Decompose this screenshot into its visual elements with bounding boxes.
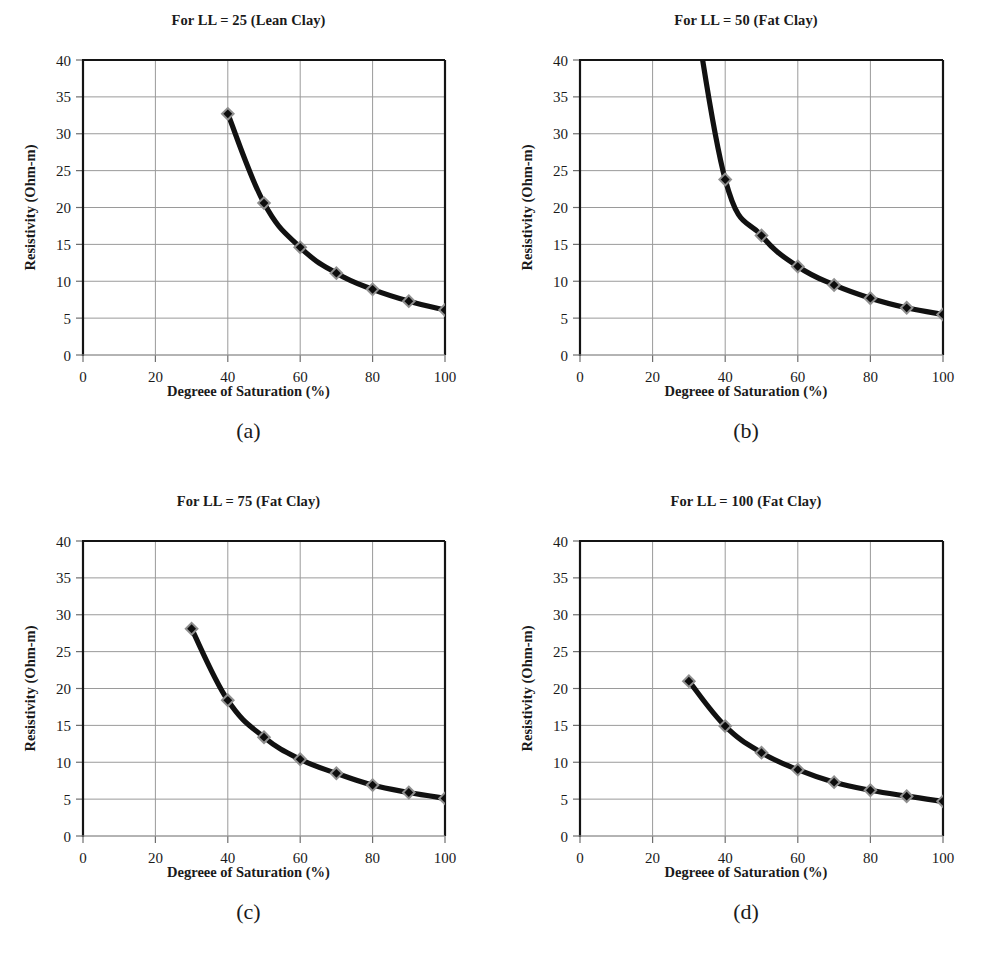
ytick-label: 15	[56, 718, 71, 734]
panel-b: For LL = 50 (Fat Clay) 05101520253035400…	[497, 0, 995, 481]
data-point-marker	[365, 282, 379, 296]
xtick-label: 40	[220, 369, 235, 382]
ytick-label: 5	[561, 311, 569, 327]
panel-b-plot: 0510152025303540020406080100Resistivity …	[497, 42, 995, 382]
xtick-label: 80	[863, 850, 878, 863]
data-point-marker	[365, 778, 379, 792]
data-point-marker	[863, 291, 877, 305]
panel-c-caption: (c)	[0, 899, 497, 925]
data-point-marker	[900, 789, 914, 803]
ytick-label: 10	[56, 274, 71, 290]
xtick-label: 100	[434, 369, 457, 382]
yaxis-title: Resistivity (Ohm-m)	[22, 625, 39, 751]
xtick-label: 40	[718, 850, 733, 863]
panel-a-caption: (a)	[0, 418, 497, 444]
xtick-label: 20	[645, 369, 660, 382]
ytick-label: 20	[553, 681, 568, 697]
data-point-marker	[402, 294, 416, 308]
panel-a: For LL = 25 (Lean Clay) 0510152025303540…	[0, 0, 497, 481]
panel-d-caption: (d)	[497, 899, 995, 925]
ytick-label: 20	[553, 200, 568, 216]
xtick-label: 0	[576, 369, 584, 382]
panel-d: For LL = 100 (Fat Clay) 0510152025303540…	[497, 481, 995, 963]
panel-c-xaxis-title: Degreee of Saturation (%)	[0, 864, 497, 881]
xtick-label: 100	[932, 369, 955, 382]
ytick-label: 40	[553, 534, 568, 550]
ytick-label: 15	[553, 718, 568, 734]
panel-d-title: For LL = 100 (Fat Clay)	[497, 493, 995, 510]
xtick-label: 20	[148, 369, 163, 382]
panel-b-chart-svg: 0510152025303540020406080100Resistivity …	[497, 42, 995, 382]
xtick-label: 100	[932, 850, 955, 863]
series-line-path	[192, 629, 445, 799]
panel-a-tickmarks	[76, 60, 445, 362]
ytick-label: 30	[553, 607, 568, 623]
series-1	[689, 42, 950, 322]
panel-d-tickmarks	[573, 541, 943, 843]
ytick-label: 35	[553, 570, 568, 586]
ytick-label: 20	[56, 681, 71, 697]
ytick-label: 35	[56, 570, 71, 586]
data-point-marker	[791, 762, 805, 776]
data-point-marker	[718, 172, 732, 186]
xtick-label: 40	[220, 850, 235, 863]
xtick-label: 100	[434, 850, 457, 863]
ytick-label: 20	[56, 200, 71, 216]
panel-b-caption: (b)	[497, 418, 995, 444]
xtick-label: 60	[293, 850, 308, 863]
ytick-label: 15	[56, 237, 71, 253]
ytick-label: 25	[56, 163, 71, 179]
ytick-label: 0	[561, 829, 569, 845]
panel-c-chart-svg: 0510152025303540020406080100Resistivity …	[0, 523, 497, 863]
data-point-marker	[827, 278, 841, 292]
ytick-label: 0	[64, 348, 72, 364]
yaxis-title: Resistivity (Ohm-m)	[22, 144, 39, 270]
ytick-label: 40	[56, 53, 71, 69]
ytick-label: 35	[553, 89, 568, 105]
data-point-marker	[221, 107, 235, 121]
data-point-marker	[438, 303, 452, 317]
ytick-label: 10	[56, 755, 71, 771]
ytick-label: 5	[64, 792, 72, 808]
series-1	[184, 622, 452, 806]
panel-c-plot: 0510152025303540020406080100Resistivity …	[0, 523, 497, 863]
ytick-label: 25	[553, 644, 568, 660]
xtick-label: 60	[790, 850, 805, 863]
yaxis-title: Resistivity (Ohm-m)	[519, 144, 536, 270]
xtick-label: 0	[79, 369, 87, 382]
yaxis-title: Resistivity (Ohm-m)	[519, 625, 536, 751]
ytick-label: 10	[553, 755, 568, 771]
panel-b-tickmarks	[573, 60, 943, 362]
panel-c-title: For LL = 75 (Fat Clay)	[0, 493, 497, 510]
ytick-label: 10	[553, 274, 568, 290]
ytick-label: 40	[553, 53, 568, 69]
panel-b-title: For LL = 50 (Fat Clay)	[497, 12, 995, 29]
series-1	[221, 107, 453, 318]
xtick-label: 0	[576, 850, 584, 863]
panel-a-xaxis-title: Degreee of Saturation (%)	[0, 383, 497, 400]
series-1	[682, 674, 951, 809]
xtick-label: 0	[79, 850, 87, 863]
data-point-marker	[936, 794, 950, 808]
data-point-marker	[863, 783, 877, 797]
panel-d-tick-labels: 0510152025303540020406080100	[553, 534, 954, 864]
ytick-label: 25	[56, 644, 71, 660]
xtick-label: 40	[718, 369, 733, 382]
panel-a-plot: 0510152025303540020406080100Resistivity …	[0, 42, 497, 382]
panel-b-tick-labels: 0510152025303540020406080100	[553, 53, 954, 383]
panel-b-gridlines	[580, 60, 943, 355]
panel-c: For LL = 75 (Fat Clay) 05101520253035400…	[0, 481, 497, 963]
ytick-label: 30	[56, 126, 71, 142]
data-point-marker	[936, 307, 950, 321]
ytick-label: 0	[64, 829, 72, 845]
figure-four-panel-resistivity: For LL = 25 (Lean Clay) 0510152025303540…	[0, 0, 995, 963]
xtick-label: 80	[365, 850, 380, 863]
ytick-label: 35	[56, 89, 71, 105]
data-point-marker	[402, 785, 416, 799]
data-point-marker	[438, 791, 452, 805]
panel-c-tick-labels: 0510152025303540020406080100	[56, 534, 456, 864]
panel-d-plot: 0510152025303540020406080100Resistivity …	[497, 523, 995, 863]
xtick-label: 20	[645, 850, 660, 863]
panel-d-chart-svg: 0510152025303540020406080100Resistivity …	[497, 523, 995, 863]
ytick-label: 30	[553, 126, 568, 142]
